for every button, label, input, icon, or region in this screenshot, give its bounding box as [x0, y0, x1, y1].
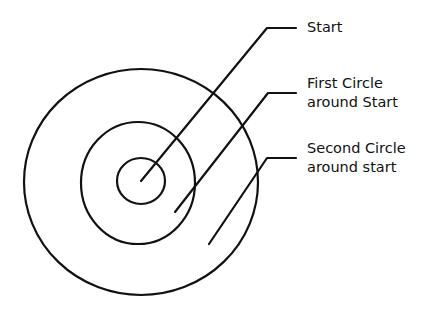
label-first-circle-line-1: First Circle — [307, 74, 398, 93]
label-second-circle-line-2: around start — [307, 158, 406, 177]
label-first-circle-line-2: around Start — [307, 93, 398, 112]
middle-circle — [81, 122, 195, 244]
label-start-line-1: Start — [307, 18, 342, 37]
leader-line-second-circle — [209, 158, 296, 244]
label-second-circle: Second Circle around start — [307, 139, 406, 177]
label-start: Start — [307, 18, 342, 37]
label-first-circle: First Circle around Start — [307, 74, 398, 112]
diagram-canvas: Start First Circle around Start Second C… — [0, 0, 426, 311]
label-second-circle-line-1: Second Circle — [307, 139, 406, 158]
